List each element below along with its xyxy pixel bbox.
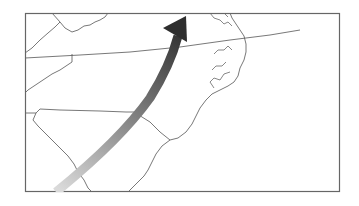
map-frame: [26, 14, 340, 192]
map-container: [0, 0, 359, 206]
map-svg: [0, 0, 359, 206]
arrow-shaft: [56, 36, 178, 192]
state-borders: [25, 13, 300, 192]
arrow: [56, 16, 187, 192]
